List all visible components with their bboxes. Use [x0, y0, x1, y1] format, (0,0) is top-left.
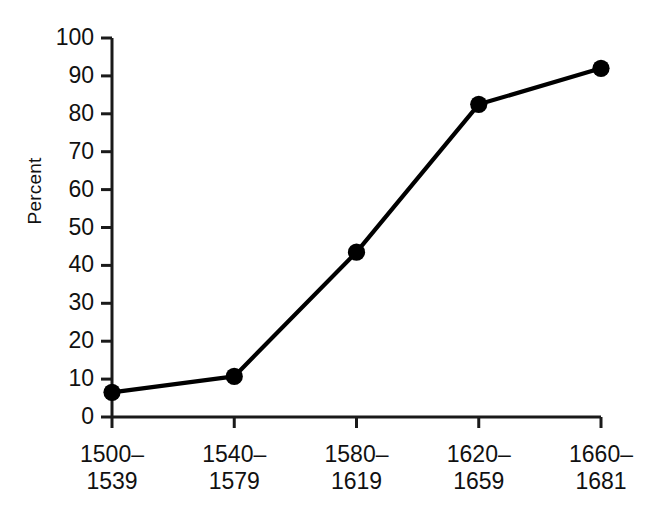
- data-point-marker: [348, 244, 365, 261]
- data-series-line: [112, 68, 601, 392]
- line-chart: Percent 1009080706050403020100 1500–1539…: [0, 0, 659, 509]
- data-point-marker: [226, 368, 243, 385]
- data-point-marker: [592, 60, 609, 77]
- data-point-markers: [103, 60, 609, 401]
- data-point-marker: [470, 96, 487, 113]
- data-point-marker: [103, 384, 120, 401]
- x-axis-tick-marks: [112, 417, 601, 428]
- y-axis-tick-marks: [101, 38, 112, 417]
- plot-area: [0, 0, 659, 509]
